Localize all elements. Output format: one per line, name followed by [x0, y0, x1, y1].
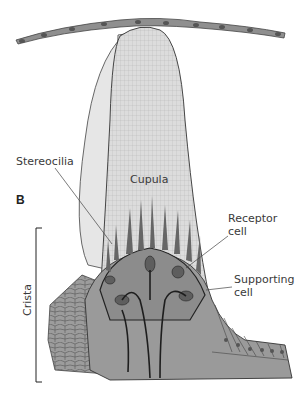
label-supporting-line2: cell — [234, 287, 253, 299]
crista-ampullaris-diagram: Cupula Stereocilia B Receptor cell Suppo… — [0, 0, 306, 396]
label-stereocilia: Stereocilia — [16, 156, 74, 168]
label-crista: Crista — [22, 284, 34, 316]
panel-letter: B — [16, 193, 25, 207]
label-cupula: Cupula — [130, 174, 168, 186]
anatomical-illustration — [0, 0, 306, 396]
crista-bracket — [36, 228, 42, 382]
label-supporting-line1: Supporting — [234, 274, 295, 286]
label-receptor-line1: Receptor — [228, 213, 277, 225]
label-receptor-line2: cell — [228, 226, 247, 238]
